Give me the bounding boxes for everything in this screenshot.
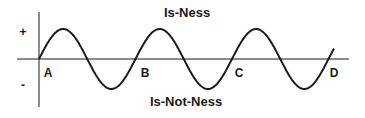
point-b-label: B (141, 66, 150, 80)
point-c-label: C (235, 66, 244, 80)
minus-label: - (21, 78, 25, 92)
point-a-label: A (44, 66, 53, 80)
point-d-label: D (330, 66, 339, 80)
plus-label: + (19, 25, 26, 39)
title-is-ness: Is-Ness (164, 5, 210, 20)
title-is-not-ness: Is-Not-Ness (150, 94, 222, 109)
is-ness-diagram: Is-Ness Is-Not-Ness + - A B C D (0, 0, 365, 118)
